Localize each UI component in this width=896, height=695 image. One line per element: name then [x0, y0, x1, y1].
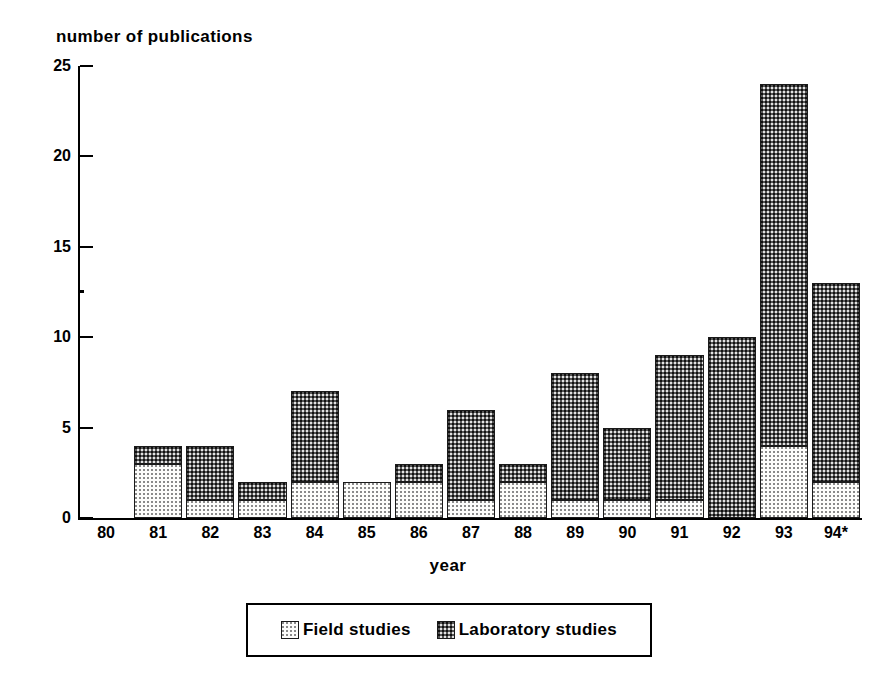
bar-slot — [758, 66, 810, 518]
legend-entry-field: Field studies — [281, 620, 411, 640]
stacked-bar — [395, 464, 443, 518]
x-tick-label: 84 — [289, 524, 341, 542]
bar-segment-field-studies — [134, 464, 182, 518]
stacked-bar — [343, 482, 391, 518]
stacked-bar — [238, 482, 286, 518]
stacked-bar — [499, 464, 547, 518]
y-tick-label: 20 — [53, 147, 71, 165]
bar-slot — [80, 66, 132, 518]
legend-label: Laboratory studies — [459, 620, 617, 640]
bar-segment-field-studies — [395, 482, 443, 518]
legend-label: Field studies — [303, 620, 411, 640]
y-tick-label: 5 — [62, 419, 71, 437]
stacked-bar — [291, 391, 339, 518]
stacked-bar — [447, 410, 495, 518]
bar-segment-laboratory-studies — [447, 410, 495, 500]
bar-segment-field-studies — [447, 500, 495, 518]
bar-segment-laboratory-studies — [655, 355, 703, 500]
x-axis-line — [78, 518, 862, 520]
bar-slot — [497, 66, 549, 518]
bar-segment-laboratory-studies — [551, 373, 599, 500]
bar-slot — [289, 66, 341, 518]
bar-segment-field-studies — [655, 500, 703, 518]
x-tick-label: 83 — [236, 524, 288, 542]
bar-segment-laboratory-studies — [395, 464, 443, 482]
x-tick-label: 94* — [810, 524, 862, 542]
bar-segment-laboratory-studies — [708, 337, 756, 518]
bar-slot — [236, 66, 288, 518]
stacked-bar — [186, 446, 234, 518]
bar-segment-field-studies — [343, 482, 391, 518]
bar-slot — [341, 66, 393, 518]
bar-segment-laboratory-studies — [499, 464, 547, 482]
x-tick-label: 92 — [706, 524, 758, 542]
bar-chart-figure: number of publications 0510152025 808182… — [0, 0, 896, 695]
bar-slot — [810, 66, 862, 518]
x-tick-label: 86 — [393, 524, 445, 542]
bar-slot — [549, 66, 601, 518]
bar-segment-laboratory-studies — [186, 446, 234, 500]
stacked-bar — [760, 84, 808, 518]
x-axis-title: year — [0, 556, 896, 576]
plot-area: 0510152025 — [78, 66, 862, 518]
y-tick-label: 10 — [53, 328, 71, 346]
bar-group — [80, 66, 862, 518]
bar-segment-field-studies — [551, 500, 599, 518]
bar-segment-field-studies — [812, 482, 860, 518]
x-tick-label: 90 — [601, 524, 653, 542]
stacked-bar — [134, 446, 182, 518]
y-tick-label: 25 — [53, 57, 71, 75]
bar-segment-laboratory-studies — [812, 283, 860, 482]
bar-slot — [184, 66, 236, 518]
x-tick-label: 89 — [549, 524, 601, 542]
bar-slot — [653, 66, 705, 518]
bar-segment-laboratory-studies — [238, 482, 286, 500]
legend-entry-lab: Laboratory studies — [437, 620, 617, 640]
stacked-bar — [655, 355, 703, 518]
bar-segment-field-studies — [603, 500, 651, 518]
bar-segment-laboratory-studies — [760, 84, 808, 446]
legend-swatch-lab-icon — [437, 621, 455, 639]
bar-segment-field-studies — [291, 482, 339, 518]
x-tick-label: 87 — [445, 524, 497, 542]
bar-segment-field-studies — [499, 482, 547, 518]
chart-legend: Field studiesLaboratory studies — [246, 603, 652, 657]
x-tick-label: 85 — [341, 524, 393, 542]
bar-slot — [706, 66, 758, 518]
bar-slot — [445, 66, 497, 518]
bar-segment-laboratory-studies — [291, 391, 339, 481]
bar-slot — [601, 66, 653, 518]
x-axis-ticks: 808182838485868788899091929394* — [78, 524, 862, 552]
bar-segment-field-studies — [238, 500, 286, 518]
x-tick-label: 88 — [497, 524, 549, 542]
x-tick-label: 91 — [653, 524, 705, 542]
bar-segment-laboratory-studies — [603, 428, 651, 500]
bar-slot — [132, 66, 184, 518]
bar-slot — [393, 66, 445, 518]
y-axis-title: number of publications — [56, 27, 253, 47]
stacked-bar — [708, 337, 756, 518]
x-tick-label: 81 — [132, 524, 184, 542]
stacked-bar — [812, 283, 860, 518]
bar-segment-laboratory-studies — [134, 446, 182, 464]
stacked-bar — [603, 428, 651, 518]
stacked-bar — [551, 373, 599, 518]
y-tick-label: 0 — [62, 509, 71, 527]
legend-swatch-field-icon — [281, 621, 299, 639]
bar-segment-field-studies — [760, 446, 808, 518]
x-tick-label: 80 — [80, 524, 132, 542]
y-tick-label: 15 — [53, 238, 71, 256]
x-tick-label: 93 — [758, 524, 810, 542]
bar-segment-field-studies — [186, 500, 234, 518]
x-tick-label: 82 — [184, 524, 236, 542]
